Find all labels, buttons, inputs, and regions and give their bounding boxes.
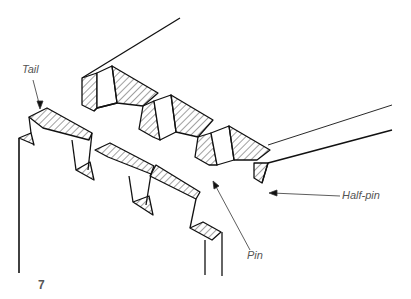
tail-label: Tail: [22, 63, 39, 75]
figure-number: 7: [38, 278, 45, 292]
dovetail-joint-drawing: [0, 0, 411, 299]
pin-label: Pin: [247, 249, 263, 261]
half-pin-label: Half-pin: [342, 189, 380, 201]
